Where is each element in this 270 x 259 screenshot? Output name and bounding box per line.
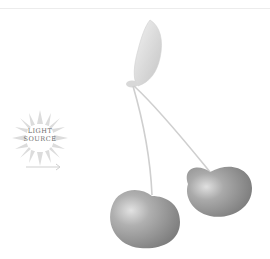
cherry-right <box>187 167 252 217</box>
arrow-right-icon <box>26 163 62 171</box>
cherry-left <box>110 190 180 248</box>
light-source-label: LIGHT SOURCE <box>12 127 68 143</box>
light-label-line2: SOURCE <box>12 135 68 143</box>
light-label-line1: LIGHT <box>12 127 68 135</box>
stem-knot <box>126 81 138 88</box>
stem-left <box>133 86 152 195</box>
stem-right <box>134 86 210 172</box>
leaf-shape <box>134 20 161 86</box>
